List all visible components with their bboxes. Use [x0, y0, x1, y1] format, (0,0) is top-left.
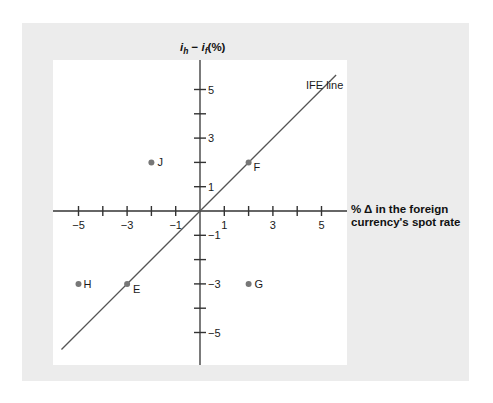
y-tick-label: −5 — [208, 327, 221, 339]
y-tick-label: −3 — [208, 278, 221, 290]
x-axis-label-line2: currency's spot rate — [351, 216, 460, 228]
y-tick-label: 3 — [208, 132, 214, 144]
chart-svg: −5−3−1135−5−3−1135 JFHEG IFE line % Δ in… — [0, 0, 493, 403]
point-label-f: F — [254, 161, 261, 173]
point-label-h: H — [84, 278, 92, 290]
x-tick-label: −5 — [72, 219, 85, 231]
x-tick-label: −3 — [121, 219, 134, 231]
point-label-g: G — [255, 278, 264, 290]
ife-line-label: IFE line — [306, 79, 343, 91]
y-tick-label: 1 — [208, 181, 214, 193]
x-tick-label: 3 — [270, 219, 276, 231]
y-tick-label: 5 — [208, 84, 214, 96]
y-label-pct: (%) — [208, 41, 226, 53]
y-label-minus: − — [188, 41, 201, 53]
data-point-f — [246, 159, 252, 165]
y-axis-label: ih − if(%) — [180, 41, 226, 56]
data-point-h — [76, 281, 82, 287]
data-point-e — [124, 281, 130, 287]
point-label-e: E — [133, 283, 140, 295]
x-tick-label: 5 — [318, 219, 324, 231]
x-tick-label: 1 — [221, 219, 227, 231]
data-point-j — [148, 159, 154, 165]
x-axis-label-line1: % Δ in the foreign — [351, 203, 448, 215]
y-tick-label: −1 — [208, 229, 221, 241]
x-tick-label: −1 — [169, 219, 182, 231]
point-label-j: J — [157, 156, 163, 168]
data-point-g — [246, 281, 252, 287]
axes — [53, 60, 347, 365]
